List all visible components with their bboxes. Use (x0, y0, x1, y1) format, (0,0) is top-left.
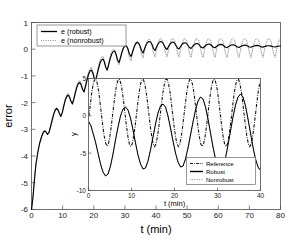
inset-ytick-2: -5 (80, 150, 86, 157)
main-xtick-8: 80 (276, 211, 285, 220)
main-ytick-marks (32, 23, 36, 210)
main-xtick-4: 40 (152, 211, 161, 220)
inset-ytick-3: -10 (77, 187, 87, 194)
main-ytick-1: 0 (24, 45, 29, 54)
inset-ytick-0: 5 (82, 75, 86, 82)
main-xtick-0: 0 (29, 211, 34, 220)
inset-xtick-0: 0 (87, 192, 91, 199)
inset-legend-label-reference: Reference (206, 161, 234, 167)
main-ytick-3: -2 (21, 99, 29, 108)
inset-xtick-3: 30 (214, 192, 222, 199)
main-xtick-3: 30 (120, 211, 129, 220)
main-xtick-1: 10 (58, 211, 67, 220)
main-ytick-labels: 1 0 -1 -2 -3 -4 -5 -6 (21, 19, 29, 215)
inset-xaxis-label: t (min) (164, 199, 186, 208)
main-xtick-5: 50 (183, 211, 192, 220)
main-yaxis-label: error (2, 104, 14, 128)
main-ytick-7: -6 (21, 205, 29, 214)
main-ytick-4: -3 (21, 125, 29, 134)
inset-ytick-1: 0 (82, 112, 86, 119)
inset-xtick-1: 10 (128, 192, 136, 199)
inset-xtick-4: 40 (257, 192, 265, 199)
figure-container: 0 10 20 30 40 50 60 70 80 1 0 -1 -2 -3 -… (0, 0, 293, 242)
inset-xtick-2: 20 (171, 192, 179, 199)
inset-xtick-labels: 0 10 20 30 40 (87, 192, 265, 199)
inset-yaxis-label: y (69, 132, 78, 136)
main-xtick-7: 70 (245, 211, 254, 220)
inset-legend-label-nonrobust: Nonrobust (206, 177, 234, 183)
main-legend-label-nonrobust: e (nonrobust) (61, 36, 104, 45)
main-xtick-labels: 0 10 20 30 40 50 60 70 80 (29, 211, 285, 220)
inset-legend[interactable]: Reference Robust Nonrobust (187, 158, 256, 185)
inset-plot-area: 0 10 20 30 40 5 0 -5 -10 t (min) y (69, 75, 264, 208)
main-legend-label-robust: e (robust) (61, 27, 92, 36)
main-xaxis-label: t (min) (140, 223, 171, 235)
main-ytick-2: -1 (21, 72, 29, 81)
main-ytick-0: 1 (24, 19, 29, 28)
main-ytick-6: -5 (21, 179, 29, 188)
error-tracking-chart: 0 10 20 30 40 50 60 70 80 1 0 -1 -2 -3 -… (0, 0, 293, 242)
inset-ytick-labels: 5 0 -5 -10 (77, 75, 87, 194)
main-ytick-5: -4 (21, 152, 29, 161)
main-xtick-6: 60 (214, 211, 223, 220)
main-xtick-marks (32, 206, 281, 210)
main-xtick-2: 20 (89, 211, 98, 220)
inset-legend-label-robust: Robust (206, 169, 225, 175)
main-legend[interactable]: e (robust) e (nonrobust) (37, 25, 126, 46)
